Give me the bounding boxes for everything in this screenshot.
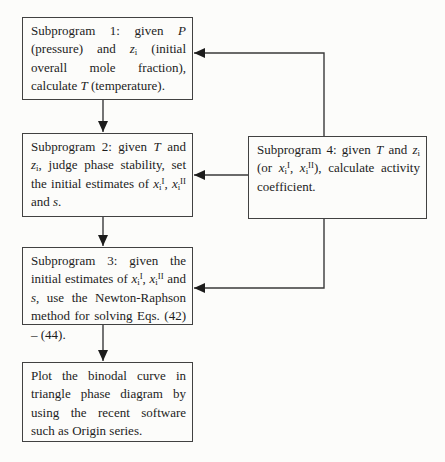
subprogram-4-text: Subprogram 4: given T and zi (or xiI, xi…	[257, 141, 420, 196]
subprogram-2-text: Subprogram 2: given T and zi, judge phas…	[31, 138, 186, 212]
arrow-subprogram4-to-subprogram3	[194, 219, 324, 288]
flowchart-canvas: Subprogram 1: given P (pressure) and zi …	[0, 0, 445, 462]
subprogram-3-box: Subprogram 3: given the initial estimate…	[22, 247, 193, 325]
subprogram-1-text: Subprogram 1: given P (pressure) and zi …	[31, 22, 186, 96]
subprogram-1-box: Subprogram 1: given P (pressure) and zi …	[22, 17, 193, 100]
subprogram-4-box: Subprogram 4: given T and zi (or xiI, xi…	[248, 136, 427, 219]
plot-text: Plot the binodal curve in triangle phase…	[31, 367, 186, 441]
subprogram-2-box: Subprogram 2: given T and zi, judge phas…	[22, 133, 193, 217]
plot-box: Plot the binodal curve in triangle phase…	[22, 362, 193, 442]
arrow-subprogram4-to-subprogram1	[194, 53, 324, 136]
subprogram-3-text: Subprogram 3: given the initial estimate…	[31, 252, 186, 344]
